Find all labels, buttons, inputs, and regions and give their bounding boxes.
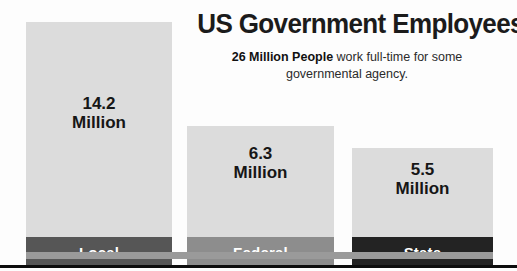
bar-federal-body: 6.3 Million (187, 126, 334, 237)
bar-federal: 6.3 Million Federal (187, 126, 334, 267)
bar-state: 5.5 Million State (352, 148, 493, 267)
bar-state-body: 5.5 Million (352, 148, 493, 237)
footer-gray-rule (26, 252, 493, 259)
chart-subtitle: 26 Million People work full-time for som… (186, 49, 508, 82)
chart-header: US Government Employees 26 Million Peopl… (186, 8, 508, 82)
bar-local-body: 14.2 Million (26, 22, 172, 237)
bar-federal-value: 6.3 (249, 144, 273, 163)
chart-title: US Government Employees (197, 8, 496, 40)
chart-subtitle-lead: 26 Million People (232, 50, 333, 64)
bar-state-unit: Million (396, 179, 450, 199)
bar-local-unit: Million (72, 113, 126, 133)
infographic-chart: US Government Employees 26 Million Peopl… (0, 0, 517, 271)
bar-local-value: 14.2 (82, 94, 115, 113)
bar-state-value: 5.5 (411, 160, 435, 179)
footer-black-rule (0, 265, 517, 268)
bar-federal-unit: Million (234, 163, 288, 183)
bar-local: 14.2 Million Local (26, 22, 172, 267)
